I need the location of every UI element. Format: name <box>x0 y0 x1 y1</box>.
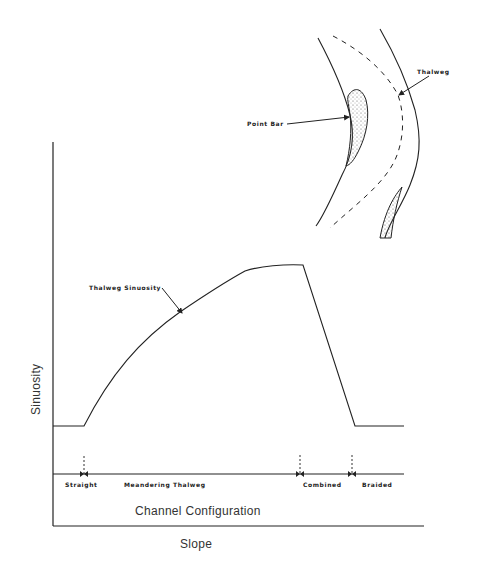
channel-configuration-axis-title: Channel Configuration <box>135 504 261 518</box>
point-bar-label: Point Bar <box>247 120 284 127</box>
thalweg-sinuosity-label: Thalweg Sinuosity <box>89 284 161 292</box>
left-bank-line <box>316 38 352 226</box>
thalweg-leader-arrow <box>399 76 429 95</box>
lower-bar-shape <box>380 187 402 238</box>
thalweg-dashed-line <box>330 36 403 228</box>
sinuosity-axis-title: Sinuosity <box>29 364 43 415</box>
slope-axis-title: Slope <box>180 537 212 551</box>
thalweg-sinuosity-leader-arrow <box>162 288 182 313</box>
straight-boundary-tick <box>80 471 88 477</box>
config-label-meandering-thalweg: Meandering Thalweg <box>124 481 206 489</box>
figure: Point Bar Thalweg Thalweg Sinuosity Stra… <box>0 0 479 570</box>
config-label-braided: Braided <box>362 481 393 488</box>
right-bank-line <box>380 29 419 238</box>
thalweg-label: Thalweg <box>417 68 450 76</box>
river-planform-inset: Point Bar Thalweg <box>247 29 450 238</box>
config-label-combined: Combined <box>303 481 342 488</box>
point-bar-leader-arrow <box>287 117 349 124</box>
config-label-straight: Straight <box>65 481 98 489</box>
point-bar-shape <box>346 90 368 166</box>
sinuosity-plot: Thalweg Sinuosity Straight Meandering Th… <box>29 142 424 551</box>
